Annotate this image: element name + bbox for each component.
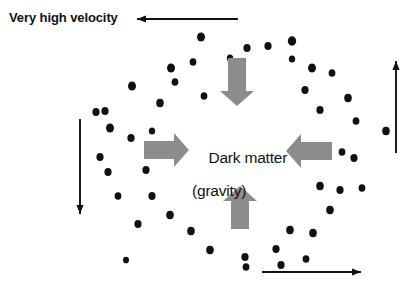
star-dot — [115, 192, 122, 200]
star-dot — [96, 153, 103, 161]
star-dot — [288, 36, 296, 45]
velocity-arrow-left — [76, 119, 83, 214]
star-dot — [329, 69, 336, 77]
star-dot — [303, 255, 310, 263]
star-dot — [316, 182, 324, 191]
star-dot — [309, 229, 317, 238]
star-dot — [142, 166, 149, 174]
star-dot — [128, 82, 136, 91]
star-dot — [167, 64, 175, 73]
star-dot — [243, 263, 250, 271]
star-dot — [172, 78, 179, 86]
dark-matter-label-line1: Dark matter — [208, 149, 287, 166]
star-dot — [243, 44, 250, 52]
star-dot — [156, 99, 164, 108]
star-dot — [301, 86, 308, 94]
gravity-arrow-down — [220, 58, 254, 106]
star-dot — [92, 108, 99, 116]
dark-matter-label: Dark matter (gravity) — [192, 134, 287, 232]
gravity-arrow-right — [144, 133, 189, 167]
star-dot — [101, 107, 108, 115]
star-dot — [336, 186, 343, 194]
dark-matter-label-line2: (gravity) — [192, 183, 287, 199]
star-dot — [241, 253, 248, 261]
star-dot — [350, 154, 357, 162]
velocity-arrow-right — [392, 61, 399, 153]
star-dot — [277, 261, 284, 269]
gravity-arrow-left — [286, 134, 332, 168]
star-dot — [359, 184, 366, 192]
star-dot — [344, 94, 352, 103]
star-dot — [106, 124, 114, 133]
star-dot — [148, 192, 155, 200]
velocity-arrow-bottom — [262, 268, 361, 275]
star-dot — [382, 127, 390, 136]
star-dot — [123, 257, 129, 264]
star-dot — [206, 246, 214, 255]
star-dot — [166, 211, 174, 220]
star-dot — [272, 245, 279, 253]
star-dot — [197, 33, 205, 42]
star-dot — [339, 148, 346, 156]
star-dot — [316, 106, 323, 114]
star-dot — [104, 168, 111, 176]
star-dot — [134, 220, 141, 228]
star-dot — [289, 55, 295, 62]
star-dot — [201, 92, 208, 100]
star-dot — [326, 206, 334, 215]
velocity-label: Very high velocity — [9, 11, 118, 25]
star-dot — [149, 127, 155, 134]
star-dot — [353, 117, 360, 125]
star-dot — [308, 64, 316, 73]
galaxy-rotation-diagram: Very high velocity Dark matter (gravity) — [0, 0, 415, 290]
star-dot — [286, 226, 294, 235]
velocity-arrow-top — [137, 15, 238, 22]
star-dot — [127, 134, 134, 142]
star-dot — [264, 42, 271, 50]
star-dot — [190, 58, 197, 66]
